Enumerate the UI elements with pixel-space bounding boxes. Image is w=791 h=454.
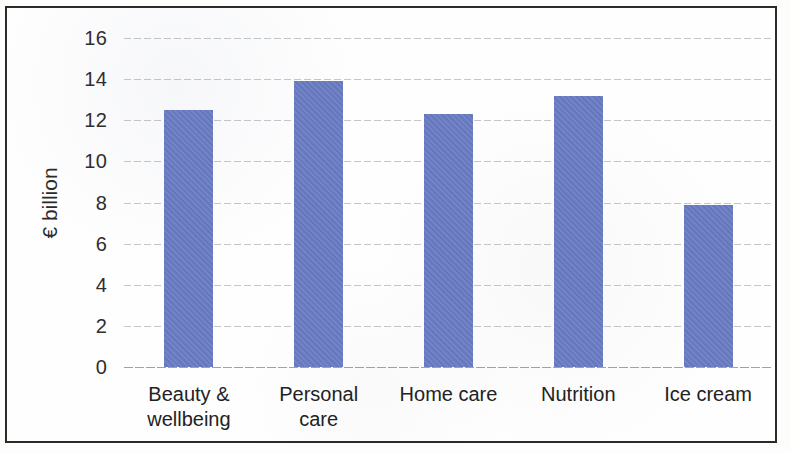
y-axis-tick-label: 0 <box>96 356 107 379</box>
x-axis-category-label-line: Personal <box>244 382 394 407</box>
y-axis-tick-label: 8 <box>96 191 107 214</box>
x-axis-category-label-line: Nutrition <box>503 382 653 407</box>
x-axis-category-label-line: wellbeing <box>114 407 264 432</box>
x-axis-category-label-line: Home care <box>374 382 524 407</box>
x-axis-category-label: Ice cream <box>633 382 783 407</box>
x-axis-labels: Beauty &wellbeingPersonalcareHome careNu… <box>124 8 773 441</box>
x-axis-category-label: Beauty &wellbeing <box>114 382 264 432</box>
x-axis-category-label: Home care <box>374 382 524 407</box>
y-axis-tick-label: 4 <box>96 273 107 296</box>
y-axis-tick-label: 10 <box>84 150 107 173</box>
x-axis-category-label-line: care <box>244 407 394 432</box>
x-axis-category-label: Personalcare <box>244 382 394 432</box>
y-axis-tick-label: 12 <box>84 109 107 132</box>
x-axis-category-label: Nutrition <box>503 382 653 407</box>
y-axis-tick-label: 2 <box>96 314 107 337</box>
y-axis-tick-label: 14 <box>84 68 107 91</box>
y-axis-tick-label: 6 <box>96 232 107 255</box>
y-axis-title: € billion <box>35 38 65 367</box>
y-axis-title-label: € billion <box>38 167 62 238</box>
x-axis-category-label-line: Ice cream <box>633 382 783 407</box>
x-axis-category-label-line: Beauty & <box>114 382 264 407</box>
chart-frame: € billion 1614121086420 Beauty &wellbein… <box>5 6 777 443</box>
chart-screenshot: € billion 1614121086420 Beauty &wellbein… <box>0 0 791 454</box>
y-axis-tick-label: 16 <box>84 27 107 50</box>
